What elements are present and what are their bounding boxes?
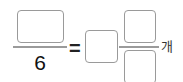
right-fraction-bar bbox=[119, 46, 159, 48]
left-denominator: 6 bbox=[28, 52, 52, 73]
unit-label: 개 bbox=[161, 40, 173, 53]
equals-sign: = bbox=[69, 38, 81, 58]
whole-number-input[interactable] bbox=[85, 30, 118, 63]
right-numerator-input[interactable] bbox=[124, 10, 156, 43]
right-denominator-input[interactable] bbox=[124, 50, 156, 82]
left-fraction-bar bbox=[13, 46, 67, 48]
left-numerator-input[interactable] bbox=[17, 10, 64, 43]
